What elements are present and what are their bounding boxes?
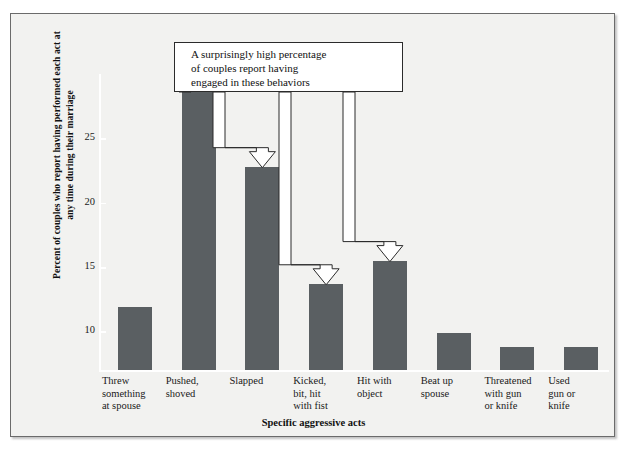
x-axis-tick-label: Threwsomethingat spouse [102,375,172,413]
x-axis-tick-label: Threatenedwith gunor knife [484,375,554,413]
x-axis-tick-label: Usedgun orknife [548,375,618,413]
bar [118,307,152,370]
annotation-callout: A surprisingly high percentage of couple… [174,42,403,92]
bar [500,347,534,370]
y-axis-tick-label: 10 [69,324,95,335]
x-axis-tick-label: Hit withobject [357,375,427,400]
y-axis-tick-label: 15 [69,260,95,271]
bar [182,91,216,370]
x-axis-tick-label: Slapped [229,375,299,388]
x-axis-line [99,370,609,372]
figure-frame: Percent of couples who report having per… [10,13,615,437]
y-axis-title: Percent of couples who report having per… [51,30,77,280]
y-axis-tick-label: 25 [69,131,95,142]
bar [373,261,407,370]
bar-series [99,74,609,370]
x-axis-title: Specific aggressive acts [11,417,616,428]
x-axis-tick-label: Beat upspouse [421,375,491,400]
bar [437,333,471,370]
bar [309,284,343,370]
x-axis-tick-label: Pushed,shoved [166,375,236,400]
annotation-callout-text: A surprisingly high percentage of couple… [191,47,401,90]
y-axis-tick-label: 20 [69,196,95,207]
bar [245,167,279,370]
bar [564,347,598,370]
x-axis-tick-label: Kicked,bit, hitwith fist [293,375,363,413]
